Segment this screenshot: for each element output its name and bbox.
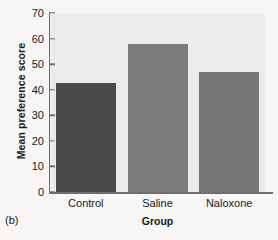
y-tick-mark — [50, 140, 55, 141]
y-tick-label: 40 — [14, 84, 44, 95]
bar-saline — [128, 44, 188, 192]
y-tick-mark — [50, 191, 55, 192]
x-tick-label: Naloxone — [206, 198, 252, 209]
y-tick-mark — [50, 63, 55, 64]
y-tick-label: 20 — [14, 135, 44, 146]
y-tick-mark — [50, 166, 55, 167]
y-tick-mark — [50, 115, 55, 116]
y-tick-label: 10 — [14, 161, 44, 172]
y-tick-mark — [50, 12, 55, 13]
bar-control — [56, 83, 116, 192]
y-tick-label: 30 — [14, 110, 44, 121]
y-tick-label: 60 — [14, 33, 44, 44]
y-tick-label: 70 — [14, 8, 44, 19]
y-tick-label: 50 — [14, 59, 44, 70]
x-tick-label: Control — [68, 198, 103, 209]
y-tick-mark — [50, 89, 55, 90]
bar-chart-figure: Mean preference score 010203040506070 Gr… — [0, 0, 278, 240]
panel-label: (b) — [5, 215, 18, 226]
y-axis-tick-labels: 010203040506070 — [14, 0, 44, 240]
x-tick-label: Saline — [142, 198, 173, 209]
plot-area — [50, 13, 265, 192]
x-axis-line — [49, 192, 273, 194]
bar-naloxone — [199, 72, 259, 192]
y-tick-label: 0 — [14, 187, 44, 198]
y-tick-mark — [50, 38, 55, 39]
x-axis-title: Group — [50, 216, 265, 227]
